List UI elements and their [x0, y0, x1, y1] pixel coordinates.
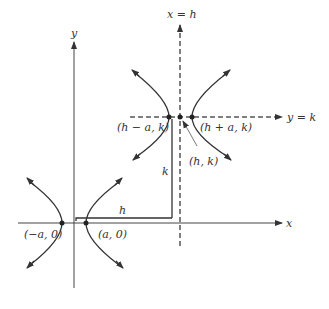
- vertex-point-a: [84, 221, 89, 226]
- translated-right-vertex-label: (h + a, k): [200, 121, 252, 134]
- center-label: (h, k): [189, 155, 218, 168]
- vertex-point-neg-a: [60, 221, 65, 226]
- horizontal-shift-bracket: [76, 218, 172, 221]
- translated-left-vertex-label: (h − a, k): [117, 121, 169, 134]
- center-point-h-k: [178, 115, 183, 120]
- vertex-point-h-minus-a: [167, 115, 172, 120]
- y-axis-label: y: [70, 27, 78, 40]
- horizontal-shift-label: h: [119, 204, 126, 217]
- center-pointer-line: [183, 121, 197, 146]
- translated-hyperbola-left-branch: [135, 73, 169, 157]
- vertex-point-h-plus-a: [190, 115, 195, 120]
- right-vertex-label: (a, 0): [98, 228, 127, 241]
- translated-hyperbola-right-branch: [192, 73, 228, 157]
- vertical-shift-label: k: [162, 165, 169, 178]
- hyperbola-diagram: y x x = h y = k (−a, 0) (a, 0) (h − a, k…: [0, 0, 329, 309]
- horizontal-line-label: y = k: [286, 111, 316, 124]
- x-axis-label: x: [286, 217, 293, 230]
- vertical-line-label: x = h: [167, 8, 197, 21]
- left-vertex-label: (−a, 0): [24, 228, 62, 241]
